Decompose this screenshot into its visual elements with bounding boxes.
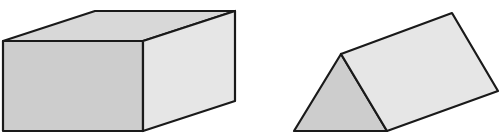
- shapes-svg: [0, 0, 502, 137]
- figure-canvas: Rectangular prism Triangular prism: [0, 0, 502, 137]
- box-front-face: [3, 41, 143, 131]
- triangular-prism: [294, 13, 498, 131]
- rectangular-prism: [3, 11, 235, 131]
